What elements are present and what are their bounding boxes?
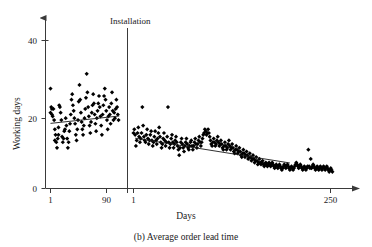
data-point xyxy=(199,144,203,148)
data-point xyxy=(171,146,175,150)
x-axis-title: Days xyxy=(176,211,196,221)
data-point xyxy=(156,131,160,135)
data-point xyxy=(52,118,56,122)
chart-svg: 0 20 40 Working days Installation 1 90 1… xyxy=(0,0,372,247)
data-point xyxy=(149,129,153,133)
data-point xyxy=(139,131,143,135)
data-point xyxy=(99,124,103,128)
scatter-points-pre-installation xyxy=(48,72,120,150)
data-point xyxy=(77,83,81,87)
data-point xyxy=(66,140,70,144)
data-point xyxy=(174,135,178,139)
data-point xyxy=(104,109,108,113)
data-point xyxy=(145,127,149,131)
data-point xyxy=(110,90,114,94)
data-point xyxy=(107,105,111,109)
data-point xyxy=(74,133,78,137)
data-point xyxy=(55,146,59,150)
data-point xyxy=(103,87,107,91)
data-point xyxy=(138,140,142,144)
data-point xyxy=(106,127,110,131)
data-point xyxy=(223,140,227,144)
data-point xyxy=(200,136,204,140)
data-point xyxy=(212,136,216,140)
data-point xyxy=(216,135,220,139)
data-point xyxy=(241,148,245,152)
data-point xyxy=(59,118,63,122)
data-point xyxy=(108,122,112,126)
data-point xyxy=(169,136,173,140)
data-point xyxy=(153,129,157,133)
data-point xyxy=(70,92,74,96)
data-point xyxy=(147,142,151,146)
data-point xyxy=(97,94,101,98)
y-tick-label-40: 40 xyxy=(28,36,38,46)
figure-average-order-lead-time: 0 20 40 Working days Installation 1 90 1… xyxy=(0,0,372,247)
data-point xyxy=(72,116,76,120)
data-point xyxy=(53,127,57,131)
data-point xyxy=(73,122,77,126)
scatter-points-post-installation xyxy=(131,105,334,174)
data-point xyxy=(157,125,161,129)
data-point xyxy=(180,136,184,140)
data-point xyxy=(193,136,197,140)
x-tickmarks xyxy=(51,189,331,194)
data-point xyxy=(81,133,85,137)
data-point xyxy=(95,109,99,113)
data-point xyxy=(79,111,83,115)
data-point xyxy=(105,118,109,122)
data-point xyxy=(152,135,156,139)
data-point xyxy=(48,87,52,91)
data-point xyxy=(109,101,113,105)
data-point xyxy=(114,98,118,102)
data-point xyxy=(72,109,76,113)
data-point xyxy=(166,105,170,109)
data-point xyxy=(191,148,195,152)
data-point xyxy=(159,146,163,150)
y-axis-title: Working days xyxy=(12,97,22,150)
data-point xyxy=(141,124,145,128)
data-point xyxy=(208,135,212,139)
data-point xyxy=(56,133,60,137)
data-point xyxy=(67,129,71,133)
data-point xyxy=(69,98,73,102)
data-point xyxy=(98,105,102,109)
data-point xyxy=(93,122,97,126)
installation-label: Installation xyxy=(110,16,151,26)
data-point xyxy=(309,157,313,161)
data-point xyxy=(84,96,88,100)
data-point xyxy=(116,118,120,122)
data-point xyxy=(167,146,171,150)
data-point xyxy=(132,127,136,131)
data-point xyxy=(66,146,70,150)
figure-caption: (b) Average order lead time xyxy=(134,232,238,243)
data-point xyxy=(61,140,65,144)
data-point xyxy=(74,138,78,142)
data-point xyxy=(56,125,60,129)
data-point xyxy=(162,131,166,135)
data-point xyxy=(68,122,72,126)
data-point xyxy=(165,135,169,139)
data-point xyxy=(64,124,68,128)
data-point xyxy=(87,124,91,128)
data-point xyxy=(100,133,104,137)
data-point xyxy=(94,129,98,133)
data-point xyxy=(85,72,89,76)
data-point xyxy=(163,144,167,148)
data-point xyxy=(59,111,63,115)
x-tick-label-pre-1: 1 xyxy=(48,195,53,205)
data-point xyxy=(136,125,140,129)
data-point xyxy=(69,112,73,116)
x-tick-label-post-250: 250 xyxy=(324,195,338,205)
data-point xyxy=(170,133,174,137)
data-point xyxy=(65,136,69,140)
y-tick-label-0: 0 xyxy=(33,184,38,194)
y-tick-label-20: 20 xyxy=(28,114,38,124)
data-point xyxy=(177,153,181,157)
data-point xyxy=(64,116,68,120)
data-point xyxy=(82,124,86,128)
data-point xyxy=(80,127,84,131)
data-point xyxy=(85,90,89,94)
data-point xyxy=(75,127,79,131)
data-point xyxy=(182,149,186,153)
